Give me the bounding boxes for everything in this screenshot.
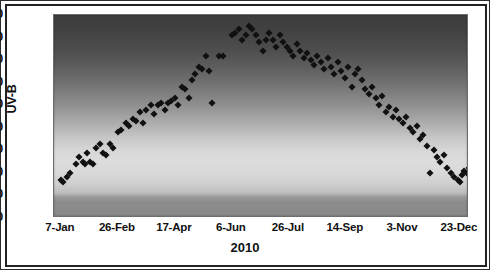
scatter-point <box>423 142 430 149</box>
scatter-point <box>259 48 266 55</box>
x-tick-label: 14-Sep <box>327 221 364 233</box>
x-tick-label: 23-Dec <box>441 221 478 233</box>
scatter-point <box>185 95 192 102</box>
x-axis-title-label: 2010 <box>0 240 490 255</box>
scatter-point <box>192 70 199 77</box>
scatter-point <box>324 54 331 61</box>
scatter-point <box>410 129 417 136</box>
scatter-point <box>348 84 355 91</box>
y-tick-label: 60 <box>0 75 3 89</box>
scatter-point <box>139 120 146 127</box>
x-tick-label: 26-Jul <box>272 221 304 233</box>
scatter-point <box>206 68 213 75</box>
scatter-point <box>440 151 447 158</box>
scatter-point <box>456 178 463 185</box>
scatter-point <box>413 122 420 129</box>
scatter-point <box>182 86 189 93</box>
scatter-point <box>202 52 209 59</box>
y-tick-label: 90 <box>0 7 3 21</box>
scatter-point <box>379 93 386 100</box>
x-tick-label: 3-Nov <box>386 221 417 233</box>
scatter-point <box>89 160 96 167</box>
scatter-point <box>358 77 365 84</box>
y-tick-label: 40 <box>0 120 3 134</box>
y-tick-label: 80 <box>0 30 3 44</box>
scatter-point <box>334 59 341 66</box>
scatter-point <box>175 102 182 109</box>
scatter-point <box>84 149 91 156</box>
scatter-point <box>133 117 140 124</box>
uvb-scatter-chart: UV-B 9080706050403020100 7-Jan26-Feb17-A… <box>0 0 490 270</box>
y-tick-label: 10 <box>0 187 3 201</box>
scatter-point <box>420 131 427 138</box>
x-tick-label: 17-Apr <box>156 221 191 233</box>
scatter-point <box>427 169 434 176</box>
y-tick-label: 30 <box>0 142 3 156</box>
scatter-point <box>310 61 317 68</box>
scatter-point <box>369 84 376 91</box>
plot-area <box>53 14 468 217</box>
y-tick-label: 50 <box>0 97 3 111</box>
scatter-point <box>103 151 110 158</box>
scatter-point <box>290 52 297 59</box>
scatter-point <box>297 48 304 55</box>
scatter-point <box>161 106 168 113</box>
scatter-point <box>365 90 372 97</box>
scatter-point <box>345 63 352 70</box>
scatter-point <box>341 75 348 82</box>
y-tick-label: 70 <box>0 52 3 66</box>
scatter-point <box>110 145 117 152</box>
scatter-point <box>403 113 410 120</box>
x-tick-label: 7-Jan <box>45 221 74 233</box>
scatter-point <box>209 99 216 106</box>
x-tick-label: 6-Jun <box>216 221 246 233</box>
scatter-point <box>147 102 154 109</box>
scatter-point <box>375 102 382 109</box>
scatter-point <box>437 158 444 165</box>
scatter-point <box>151 111 158 118</box>
scatter-point <box>392 106 399 113</box>
y-tick-label: 20 <box>0 165 3 179</box>
scatter-point <box>273 43 280 50</box>
x-axis-tick-labels: 7-Jan26-Feb17-Apr6-Jun26-Jul14-Sep3-Nov2… <box>0 221 490 239</box>
scatter-point <box>266 29 273 36</box>
x-tick-label: 26-Feb <box>99 221 135 233</box>
scatter-point <box>126 122 133 129</box>
scatter-point <box>199 66 206 73</box>
